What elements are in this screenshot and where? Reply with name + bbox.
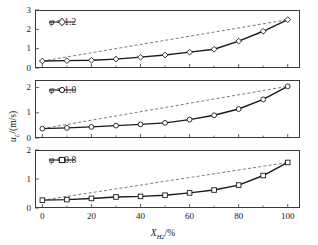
y-tick-label: 1 <box>17 108 31 117</box>
x-tick-label: 60 <box>179 212 201 221</box>
legend-panel-2: φ = 1.0 <box>49 85 76 95</box>
x-tick-label: 80 <box>228 212 250 221</box>
legend-panel-3: φ = 0.8 <box>49 155 76 165</box>
y-tick-label: 1 <box>17 175 31 184</box>
y-tick-label: 3 <box>17 6 31 15</box>
x-tick-label: 0 <box>31 212 53 221</box>
x-tick-label: 20 <box>80 212 102 221</box>
legend-swatch-3 <box>49 155 75 165</box>
y-tick-label: 2 <box>17 83 31 92</box>
panel-phi-0-8: φ = 0.8 <box>35 150 300 208</box>
panel-phi-1-0: φ = 1.0 <box>35 80 300 138</box>
y-tick-label: 0 <box>17 204 31 213</box>
x-tick-label: 40 <box>130 212 152 221</box>
figure-root: uL/(m/s) XH2/% φ = 1.2 φ = 1.0 <box>0 0 318 245</box>
x-axis-title: XH2/% <box>118 228 208 240</box>
y-tick-label: 2 <box>17 146 31 155</box>
y-tick-label: 2 <box>17 25 31 34</box>
y-tick-label: 0 <box>17 64 31 73</box>
y-tick-label: 0 <box>17 134 31 143</box>
x-axis-title-unit: /% <box>165 228 176 238</box>
legend-swatch-1 <box>49 17 75 27</box>
legend-panel-1: φ = 1.2 <box>49 17 76 27</box>
panel-phi-1-2: φ = 1.2 <box>35 10 300 68</box>
legend-swatch-2 <box>49 85 75 95</box>
y-tick-label: 1 <box>17 44 31 53</box>
x-tick-label: 100 <box>277 212 299 221</box>
